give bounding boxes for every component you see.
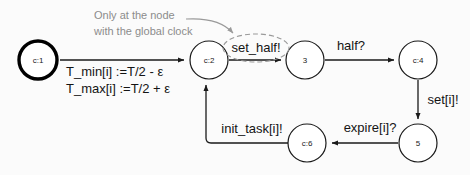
state-node-3-label: 3	[303, 56, 308, 65]
state-machine-diagram: c:1 c:2 3 c:4 5 c:6 T_min[i] :=T/2 - ε T…	[0, 0, 470, 175]
annotation-text-line1: Only at the node	[94, 9, 175, 21]
state-node-c4[interactable]: c:4	[399, 41, 437, 79]
edge-label-half: half?	[337, 38, 365, 53]
diagram-canvas: c:1 c:2 3 c:4 5 c:6 T_min[i] :=T/2 - ε T…	[0, 0, 470, 175]
edge-label-assignment-line1: T_min[i] :=T/2 - ε	[66, 64, 163, 79]
edge-label-expire-i: expire[i]?	[344, 120, 397, 135]
state-node-c6[interactable]: c:6	[288, 124, 326, 162]
state-node-5-label: 5	[416, 139, 421, 148]
edge-label-set-half: set_half!	[231, 40, 280, 55]
edge-label-set-i: set[i]!	[427, 92, 458, 107]
state-node-c2-label: c:2	[204, 56, 215, 65]
state-node-c6-label: c:6	[302, 139, 313, 148]
edge-label-init-task: init_task[i]!	[221, 121, 282, 136]
annotation-text-line2: with the global clock	[93, 25, 193, 37]
state-node-3[interactable]: 3	[286, 41, 324, 79]
edge-label-assignment-line2: T_max[i] :=T/2 + ε	[66, 81, 170, 96]
state-node-c1[interactable]: c:1	[19, 41, 57, 79]
state-node-c2[interactable]: c:2	[190, 41, 228, 79]
state-node-5[interactable]: 5	[399, 124, 437, 162]
annotation-pointer-arrow	[186, 19, 233, 33]
state-node-c4-label: c:4	[413, 56, 424, 65]
state-node-c1-label: c:1	[33, 56, 44, 65]
